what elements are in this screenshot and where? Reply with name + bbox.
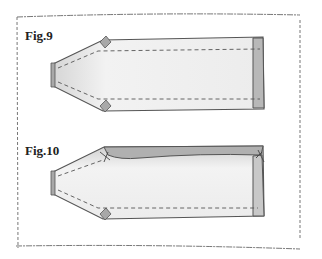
end-tab	[51, 63, 55, 87]
figure-label-9: Fig.9	[25, 28, 53, 44]
sleeve-piece	[53, 37, 264, 111]
cuff-fold	[253, 38, 264, 108]
figure-10	[51, 146, 264, 220]
end-tab	[51, 171, 55, 195]
cuff-fold	[253, 155, 264, 216]
figure-9	[51, 36, 264, 112]
figure-label-10: Fig.10	[25, 143, 59, 159]
